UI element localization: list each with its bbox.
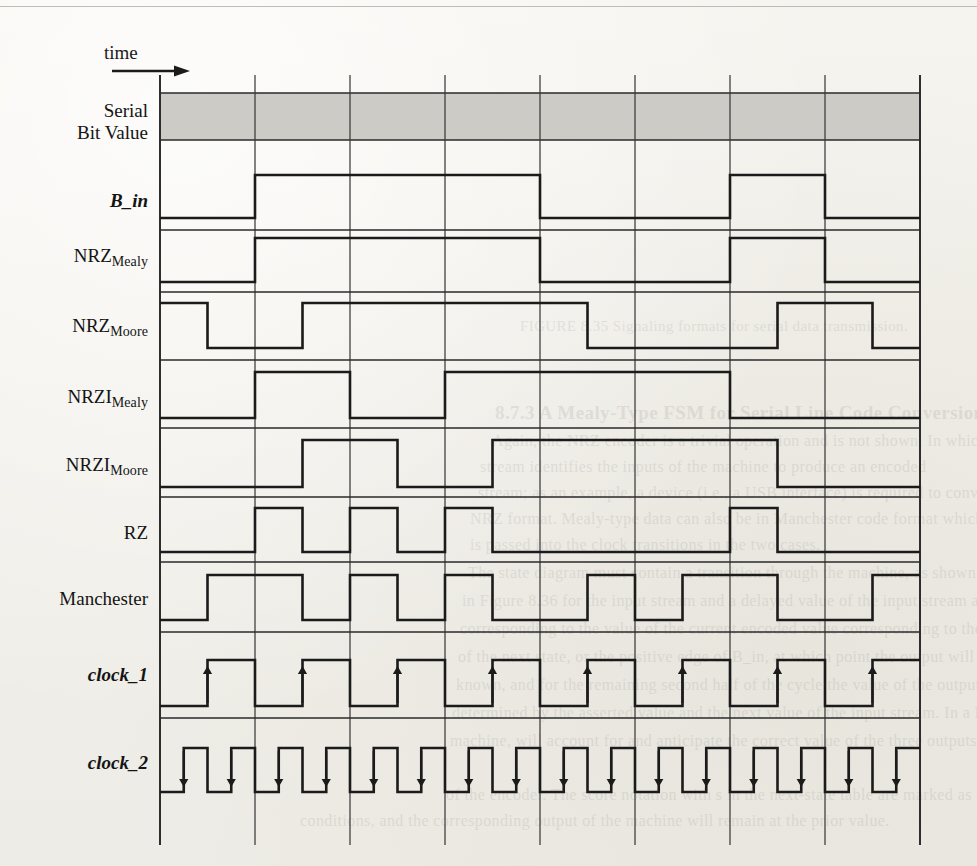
clock-1-rising-edge-arrow-head xyxy=(583,666,592,674)
timing-diagram-svg xyxy=(0,0,977,866)
clock-2-falling-edge-arrow-head xyxy=(607,779,616,787)
clock-2-falling-edge-arrow-head xyxy=(749,779,758,787)
clock-1-rising-edge-arrow-head xyxy=(868,666,877,674)
clock-2-falling-edge-arrow-head xyxy=(654,779,663,787)
clock-2-falling-edge-arrow-head xyxy=(274,779,283,787)
clock-1-rising-edge-arrow-head xyxy=(393,666,402,674)
waveform-nrz-mealy xyxy=(160,238,920,282)
clock-2-falling-edge-arrow-head xyxy=(227,779,236,787)
clock-2-falling-edge-arrow-head xyxy=(369,779,378,787)
clock-2-falling-edge-arrow-head xyxy=(892,779,901,787)
clock-2-falling-edge-arrow-head xyxy=(417,779,426,787)
clock-1-rising-edge-arrow-head xyxy=(488,666,497,674)
clock-1-rising-edge-arrow-head xyxy=(678,666,687,674)
waveform-clock-2 xyxy=(160,748,920,792)
clock-1-rising-edge-arrow-head xyxy=(773,666,782,674)
waveform-b-in xyxy=(160,175,920,218)
clock-1-rising-edge-arrow-head xyxy=(298,666,307,674)
clock-2-falling-edge-arrow-head xyxy=(322,779,331,787)
timing-diagram xyxy=(0,0,977,866)
clock-2-falling-edge-arrow-head xyxy=(464,779,473,787)
clock-2-falling-edge-arrow-head xyxy=(559,779,568,787)
clock-2-falling-edge-arrow-head xyxy=(844,779,853,787)
clock-2-falling-edge-arrow-head xyxy=(179,779,188,787)
clock-2-falling-edge-arrow-head xyxy=(702,779,711,787)
clock-2-falling-edge-arrow-head xyxy=(797,779,806,787)
waveform-clock-1 xyxy=(160,660,920,706)
clock-2-falling-edge-arrow-head xyxy=(512,779,521,787)
clock-1-rising-edge-arrow-head xyxy=(203,666,212,674)
